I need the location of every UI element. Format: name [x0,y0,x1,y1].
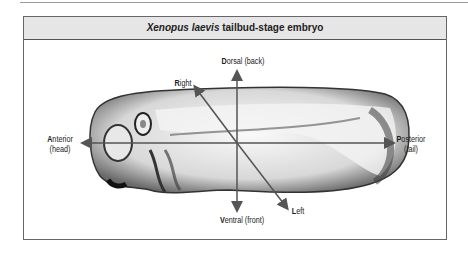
label-anterior: Anterior(head) [43,134,77,154]
label-left: Left [288,206,308,216]
label-posterior: Posterior(tail) [391,134,430,154]
label-right: Right [170,78,196,88]
label-ventral: Ventral (front) [217,215,268,225]
embryo-illustration [90,87,409,192]
label-dorsal: Dorsal (back) [218,56,269,66]
